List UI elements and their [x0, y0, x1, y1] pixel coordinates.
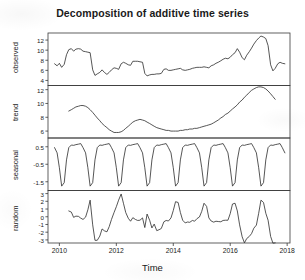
series-line-observed	[55, 36, 285, 76]
panel-frame-observed	[48, 33, 290, 86]
panel-frame-seasonal	[48, 138, 290, 191]
plot-canvas	[0, 0, 305, 280]
panel-frame-trend	[48, 86, 290, 139]
decomposition-figure: Decomposition of additive time series ob…	[0, 0, 305, 280]
series-line-random	[69, 194, 275, 243]
series-line-seasonal	[55, 144, 285, 187]
panel-frame-random	[48, 191, 290, 244]
series-line-trend	[69, 87, 275, 133]
